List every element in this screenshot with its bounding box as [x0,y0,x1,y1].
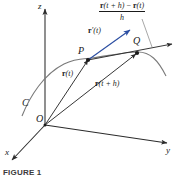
difference-quotient-numerator: r(t + h) − r(t) [99,1,145,12]
x-axis-label: x [5,148,9,157]
point-q-dot [135,51,139,55]
curve-label-c: C [22,98,29,108]
difference-quotient-label: r(t + h) − r(t) h [99,1,145,22]
leader-line [142,19,152,47]
vector-derivative-figure: r(t + h) − r(t) h z y x P Q O C r(t) r(t… [0,0,185,177]
r-arg-t-plus-h: (t + h) [99,79,120,88]
numerator-arg-first: (t + h) [104,1,125,10]
position-vector-t-label: r(t) [62,70,73,78]
x-axis [12,125,45,160]
point-q-label: Q [133,36,140,46]
position-vector-t-plus-h-label: r(t + h) [95,80,120,88]
figure-caption: FIGURE 1 [3,168,42,177]
point-p-dot [86,58,90,62]
r-arg-t: (t) [66,69,74,78]
tangent-vector-label: r′(t) [88,27,101,35]
secant-vector [88,44,172,60]
position-vector-t-plus-h [45,54,136,125]
origin-dot [44,124,47,127]
y-axis-label: y [166,146,170,155]
point-p-label: P [78,46,84,56]
numerator-minus-sign: − [125,1,134,10]
space-curve [22,52,166,116]
z-axis-label: z [38,2,42,11]
r-arg-prime: ′(t) [92,26,101,35]
numerator-arg-second: (t) [137,1,145,10]
difference-quotient-denominator: h [99,12,145,22]
y-axis [45,125,167,143]
origin-label: O [36,114,43,124]
